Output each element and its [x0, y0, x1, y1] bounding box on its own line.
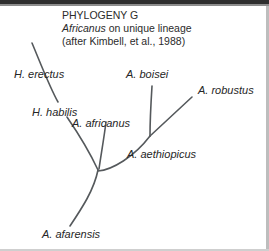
taxon-label-a-africanus: A. africanus: [72, 117, 130, 129]
taxon-label-a-aethiopicus: A. aethiopicus: [127, 148, 196, 160]
branch-a-robustus: [150, 97, 192, 136]
figure-subtitle-italic: Africanus: [62, 22, 106, 34]
taxon-label-a-robustus: A. robustus: [198, 84, 254, 96]
branch-a-africanus: [99, 122, 106, 169]
figure-title: PHYLOGENY G: [62, 9, 192, 22]
figure-citation: (after Kimbell, et al., 1988): [62, 35, 192, 48]
figure-subtitle-rest: on unique lineage: [106, 22, 192, 34]
phylogeny-figure: PHYLOGENY G Africanus on unique lineage …: [0, 0, 269, 251]
taxon-label-a-boisei: A. boisei: [126, 68, 168, 80]
branch-a-afarensis: [70, 170, 98, 226]
figure-subtitle: Africanus on unique lineage: [62, 22, 192, 35]
taxon-label-h-erectus: H. erectus: [14, 68, 64, 80]
taxon-label-h-habilis: H. habilis: [32, 106, 77, 118]
branch-a-boisei: [150, 86, 152, 136]
title-block: PHYLOGENY G Africanus on unique lineage …: [62, 9, 192, 48]
taxon-label-a-afarensis: A. afarensis: [42, 228, 100, 240]
